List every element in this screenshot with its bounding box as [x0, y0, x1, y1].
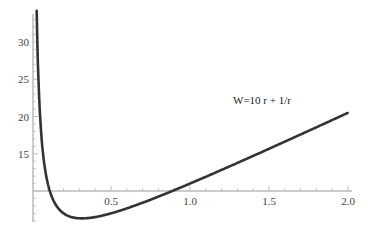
function-curve — [37, 11, 348, 219]
y-tick-label: 25 — [18, 73, 30, 85]
x-axis — [33, 186, 352, 191]
x-tick-label: 1.5 — [262, 195, 276, 207]
y-tick-label: 15 — [18, 148, 30, 160]
y-tick-labels: 15202530 — [18, 36, 30, 160]
y-tick-label: 20 — [18, 111, 30, 123]
x-tick-label: 2.0 — [341, 195, 355, 207]
y-tick-label: 30 — [18, 36, 30, 48]
x-tick-labels: 0.51.01.52.0 — [104, 195, 355, 207]
x-tick-label: 0.5 — [104, 195, 118, 207]
x-tick-label: 1.0 — [183, 195, 197, 207]
chart: 15202530 0.51.01.52.0 W=10 r + 1/r — [0, 0, 374, 232]
function-label: W=10 r + 1/r — [233, 94, 291, 106]
